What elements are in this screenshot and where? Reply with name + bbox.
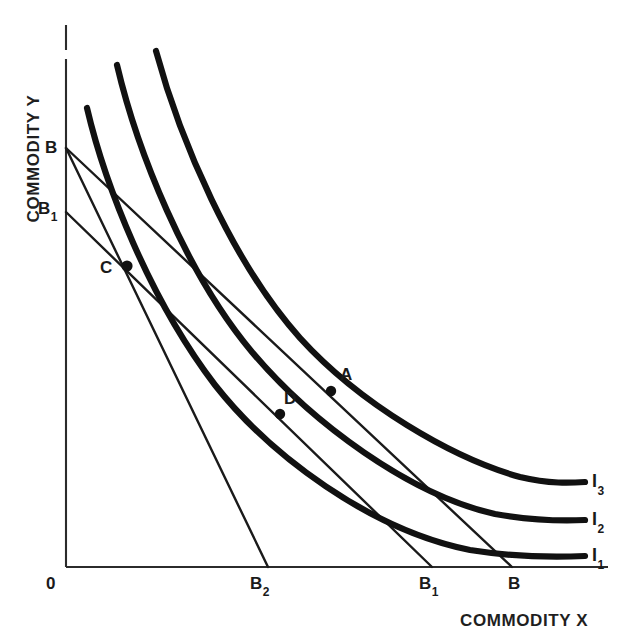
curve-label-I2: I2 <box>592 510 604 532</box>
origin-label: 0 <box>46 575 55 592</box>
x-axis-title: COMMODITY X <box>460 612 588 629</box>
indifference-curve-I2 <box>117 65 585 520</box>
x-intercept-B-main: B <box>508 574 520 593</box>
x-intercept-B1-sub: 1 <box>432 585 439 599</box>
curve-label-I1-main: I <box>592 545 597 565</box>
y-intercept-B1-sub: 1 <box>51 210 58 224</box>
x-intercept-label-B: B <box>508 575 520 592</box>
curve-label-I3: I3 <box>592 472 604 494</box>
indifference-curve-I1 <box>87 108 585 557</box>
point-dot-A <box>326 386 336 396</box>
y-intercept-B-main: B <box>45 138 57 157</box>
budget-line-B-B <box>66 148 512 567</box>
curve-label-I3-sub: 3 <box>598 484 605 498</box>
curve-label-I3-main: I <box>592 471 597 491</box>
chart-canvas <box>0 0 631 642</box>
point-label-C: C <box>100 259 112 276</box>
curve-label-I1: I1 <box>592 546 604 568</box>
indifference-curve-figure: COMMODITY Y COMMODITY X 0 B B1 B2 B1 B A… <box>0 0 631 642</box>
point-label-D: D <box>284 390 296 407</box>
x-intercept-B1-main: B <box>419 574 431 593</box>
point-dot-D <box>275 409 285 419</box>
y-intercept-label-B1: B1 <box>38 200 57 220</box>
x-intercept-B2-sub: 2 <box>263 585 270 599</box>
point-dot-C <box>121 260 132 271</box>
point-label-A: A <box>340 366 352 383</box>
x-intercept-label-B1: B1 <box>419 575 438 595</box>
curve-label-I2-main: I <box>592 509 597 529</box>
curve-label-I2-sub: 2 <box>598 522 605 536</box>
x-intercept-B2-main: B <box>250 574 262 593</box>
y-intercept-B1-main: B <box>38 199 50 218</box>
indifference-curve-I3 <box>156 51 585 483</box>
y-intercept-label-B: B <box>45 139 57 156</box>
curve-label-I1-sub: 1 <box>598 558 605 572</box>
x-intercept-label-B2: B2 <box>250 575 269 595</box>
